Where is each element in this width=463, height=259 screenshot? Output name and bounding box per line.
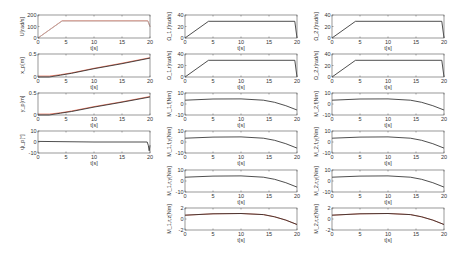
x-tick-label: 5 [64,154,67,160]
series-actual [185,137,297,148]
x-axis-label: t[s] [237,237,245,243]
x-axis-label: t[s] [384,160,392,166]
series-actual [38,21,150,38]
x-tick-label: 15 [413,231,419,237]
x-tick-label: 20 [147,78,153,84]
y-tick-label: 100 [27,24,36,30]
y-axis-label: Ω_2,f[rad/s] [313,12,319,41]
x-tick-label: 15 [119,78,125,84]
x-tick-label: 0 [36,116,39,122]
y-tick-label: 2 [180,205,183,211]
x-tick-label: 15 [266,231,272,237]
y-tick-label: 0 [33,74,36,80]
x-axis-label: t[s] [90,84,98,90]
y-axis-label: U[rad/s] [19,16,25,36]
x-tick-label: 15 [413,154,419,160]
x-axis-label: t[s] [237,84,245,90]
subplot-p1: 051015200100200t[s]U[rad/s] [19,12,153,51]
y-axis-label: M_2,f,y[Nm] [313,127,319,157]
x-tick-label: 5 [358,231,361,237]
y-tick-label: 0 [33,112,36,118]
y-axis-label: M_2,r,y[Nm] [313,166,319,196]
y-tick-label: 0 [180,178,183,184]
series-reference [38,21,150,38]
y-tick-label: 20 [177,63,183,69]
x-axis-label: t[s] [237,45,245,51]
y-tick-label: 40 [177,51,183,57]
series-actual [185,21,297,38]
x-tick-label: 5 [211,78,214,84]
x-tick-label: 15 [266,39,272,45]
y-tick-label: 20 [324,63,330,69]
x-tick-label: 0 [183,116,186,122]
x-tick-label: 15 [119,39,125,45]
x-tick-label: 0 [330,116,333,122]
y-tick-label: 2 [327,205,330,211]
y-tick-label: 10 [177,167,183,173]
x-tick-label: 20 [441,78,447,84]
x-axis-label: t[s] [90,160,98,166]
x-tick-label: 15 [266,154,272,160]
x-tick-label: 15 [413,39,419,45]
subplot-p11: 05101520-10010t[s]M_1,r,y[Nm] [166,166,300,205]
x-tick-label: 15 [266,193,272,199]
x-tick-label: 0 [330,231,333,237]
series-reference [332,214,444,225]
y-tick-label: 0 [180,139,183,145]
y-tick-label: 0.5 [29,51,37,57]
x-axis-label: t[s] [237,160,245,166]
x-tick-label: 5 [211,39,214,45]
x-tick-label: 15 [266,116,272,122]
y-axis-label: M_2,r,z[Nm] [313,204,319,234]
x-tick-label: 0 [183,154,186,160]
x-tick-label: 5 [358,116,361,122]
subplot-p3: 0510152000.5t[s]y_p[m] [19,90,153,128]
subplot-p15: 05101520-10010t[s]M_2,r,y[Nm] [313,166,447,205]
x-tick-label: 20 [294,39,300,45]
y-tick-label: 0 [180,216,183,222]
x-tick-label: 5 [64,78,67,84]
y-tick-label: 10 [324,90,330,96]
x-tick-label: 0 [330,78,333,84]
series-actual [332,214,444,225]
y-tick-label: -10 [323,189,331,195]
y-tick-label: -10 [176,189,184,195]
x-tick-label: 15 [413,193,419,199]
subplot-p5: 0510152002040t[s]Ω_1,f[rad/s] [166,12,300,51]
x-axis-label: t[s] [90,45,98,51]
axes-frame [38,54,150,77]
x-tick-label: 20 [294,154,300,160]
x-tick-label: 5 [358,154,361,160]
x-tick-label: 0 [330,193,333,199]
x-tick-label: 5 [64,39,67,45]
subplot-p8: 0510152002040t[s]Ω_2,r[rad/s] [313,51,447,90]
subplot-p6: 0510152002040t[s]Ω_1,r[rad/s] [166,51,300,90]
y-tick-label: -2 [179,227,184,233]
y-tick-label: 200 [27,12,36,18]
y-tick-label: 40 [324,51,330,57]
y-tick-label: 10 [30,128,36,134]
x-tick-label: 0 [36,154,39,160]
subplot-p4: 05101520-10010t[s]ψ_p[°] [19,128,153,166]
x-tick-label: 0 [183,193,186,199]
series-actual [185,214,297,225]
series-actual [185,60,297,77]
axes-frame [185,208,297,230]
subplot-p9: 05101520-10010t[s]M_1,f[Nm] [166,90,300,128]
y-tick-label: 0 [327,139,330,145]
series-actual [332,176,444,187]
x-tick-label: 15 [413,78,419,84]
figure-canvas: 051015200100200t[s]U[rad/s]0510152000.5t… [0,0,463,259]
subplot-p10: 05101520-10010t[s]M_1,f,y[Nm] [166,127,300,166]
y-tick-label: 0 [327,35,330,41]
series-actual [185,176,297,187]
y-tick-label: -10 [176,112,184,118]
y-axis-label: Ω_1,f[rad/s] [166,12,172,41]
x-axis-label: t[s] [90,122,98,128]
subplot-p14: 05101520-10010t[s]M_2,f,y[Nm] [313,127,447,166]
x-tick-label: 5 [64,116,67,122]
x-tick-label: 20 [441,154,447,160]
y-axis-label: Ω_2,r[rad/s] [313,51,319,80]
x-tick-label: 0 [183,78,186,84]
y-tick-label: -10 [323,150,331,156]
